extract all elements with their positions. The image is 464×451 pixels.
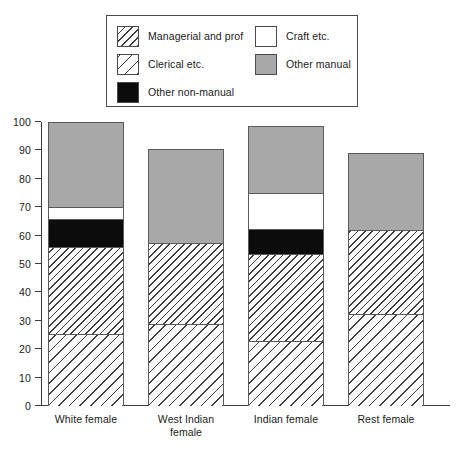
bar-rest-female: Rest female (348, 153, 424, 406)
bar-segment-other-manual (148, 149, 224, 243)
y-axis-tick: 100 (35, 121, 41, 122)
y-axis-tick: 90 (35, 149, 41, 150)
y-axis-tick-label: 50 (19, 258, 31, 270)
y-axis-tick: 30 (35, 320, 41, 321)
legend-column-left: Managerial and prof Clerical etc. Other … (117, 23, 257, 107)
y-axis-tick: 50 (35, 263, 41, 264)
legend-column-right: Craft etc. Other manual (255, 23, 365, 79)
legend-item-craft-etc: Craft etc. (255, 23, 365, 49)
bar-segment-other-non-manual (48, 219, 124, 247)
y-axis-tick-label: 40 (19, 286, 31, 298)
y-axis-tick-label: 90 (19, 144, 31, 156)
bar-indian-female: Indian female (248, 126, 324, 406)
bar-segment-clerical-etc (348, 230, 424, 314)
bar-segment-other-non-manual (248, 229, 324, 255)
hatch-forward-sparse-swatch-icon (117, 26, 139, 47)
y-axis-tick-label: 80 (19, 173, 31, 185)
legend-label: Clerical etc. (148, 59, 204, 70)
bar-segment-craft-etc (248, 193, 324, 229)
legend-item-other-manual: Other manual (255, 51, 365, 77)
x-axis-tick-label: West Indianfemale (131, 413, 241, 439)
legend-item-clerical-etc: Clerical etc. (117, 51, 257, 77)
bar-segment-managerial-and-prof (48, 334, 124, 406)
solid-grey-swatch-icon (255, 54, 277, 75)
legend-label: Managerial and prof (148, 31, 243, 42)
x-axis-tick-label: Indian female (231, 413, 341, 426)
chart-legend: Managerial and prof Clerical etc. Other … (106, 15, 358, 107)
legend-item-managerial-and-prof: Managerial and prof (117, 23, 257, 49)
y-axis-tick: 80 (35, 178, 41, 179)
x-axis-tick-label: White female (31, 413, 141, 426)
y-axis-tick-label: 20 (19, 343, 31, 355)
y-axis-tick: 60 (35, 235, 41, 236)
hatch-forward-dense-swatch-icon (117, 54, 139, 75)
bar-segment-managerial-and-prof (248, 341, 324, 406)
bar-segment-other-manual (248, 126, 324, 193)
y-axis-tick: 70 (35, 206, 41, 207)
y-axis-tick-label: 60 (19, 230, 31, 242)
bar-segment-managerial-and-prof (348, 314, 424, 406)
y-axis-tick-label: 0 (25, 400, 31, 412)
y-axis-tick: 0 (35, 405, 41, 406)
y-axis-tick: 40 (35, 291, 41, 292)
bar-segment-managerial-and-prof (148, 324, 224, 406)
legend-label: Craft etc. (286, 31, 330, 42)
bar-segment-other-manual (348, 153, 424, 230)
bar-segment-clerical-etc (148, 243, 224, 324)
y-axis-tick-label: 100 (13, 116, 31, 128)
bar-segment-clerical-etc (48, 247, 124, 334)
bar-segment-craft-etc (48, 207, 124, 218)
y-axis-tick-label: 30 (19, 315, 31, 327)
bar-segment-clerical-etc (248, 254, 324, 341)
solid-white-swatch-icon (255, 26, 277, 47)
y-axis-tick-label: 10 (19, 372, 31, 384)
y-axis-tick: 20 (35, 348, 41, 349)
solid-black-swatch-icon (117, 82, 139, 103)
stacked-bar-chart: 0102030405060708090100 White femaleWest … (41, 122, 450, 406)
legend-label: Other manual (286, 59, 351, 70)
y-axis-tick-label: 70 (19, 201, 31, 213)
x-axis-tick-label: Rest female (331, 413, 441, 426)
bar-white-female: White female (48, 122, 124, 406)
legend-item-other-non-manual: Other non-manual (117, 79, 257, 105)
y-axis-tick: 10 (35, 377, 41, 378)
bar-west-indian-female: West Indianfemale (148, 149, 224, 406)
bar-segment-other-manual (48, 122, 124, 207)
legend-label: Other non-manual (148, 87, 234, 98)
